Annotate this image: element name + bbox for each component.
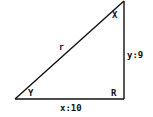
angle-r-label: R	[111, 89, 116, 98]
side-y-label: y:9	[127, 51, 143, 60]
hypotenuse-r-label: r	[59, 43, 64, 52]
angle-x-label: X	[112, 11, 117, 20]
side-x-label: x:10	[60, 104, 82, 113]
angle-y-label: Y	[28, 89, 33, 98]
hypotenuse-line	[15, 1, 124, 99]
